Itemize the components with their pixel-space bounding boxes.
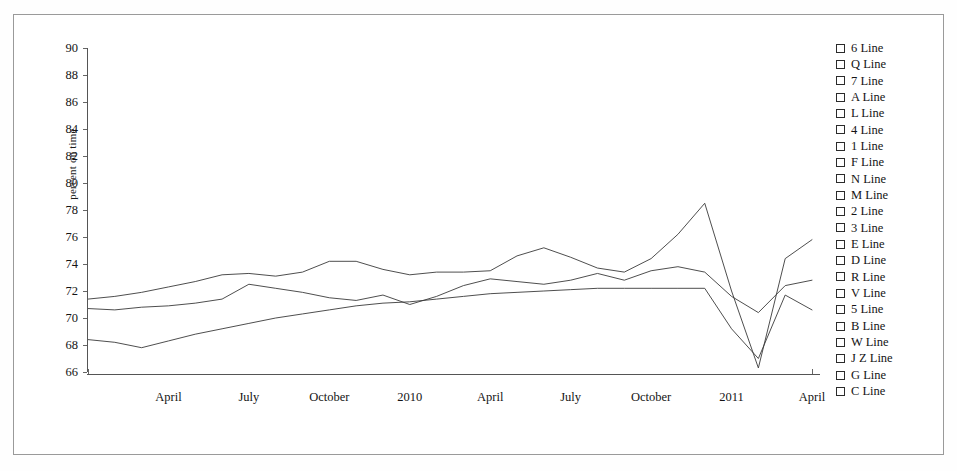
y-tick-label: 74: [52, 258, 78, 270]
legend-item-label: 2 Line: [851, 205, 883, 218]
x-tick-label: April: [477, 390, 503, 405]
legend-checkbox-icon[interactable]: [836, 371, 845, 380]
legend-item[interactable]: L Line: [836, 105, 936, 121]
legend-item-label: M Line: [851, 189, 888, 202]
legend-item-label: 3 Line: [851, 222, 883, 235]
legend-item[interactable]: V Line: [836, 285, 936, 301]
legend-checkbox-icon[interactable]: [836, 322, 845, 331]
y-tick-mark: [83, 102, 87, 103]
legend-item-label: E Line: [851, 238, 885, 251]
legend-item-label: G Line: [851, 369, 886, 382]
y-tick-mark: [83, 237, 87, 238]
legend-checkbox-icon[interactable]: [836, 142, 845, 151]
legend-item[interactable]: F Line: [836, 154, 936, 170]
y-tick-label: 84: [52, 123, 78, 135]
y-tick-mark: [83, 156, 87, 157]
legend-checkbox-icon[interactable]: [836, 174, 845, 183]
legend-checkbox-icon[interactable]: [836, 354, 845, 363]
legend-item[interactable]: M Line: [836, 187, 936, 203]
legend-checkbox-icon[interactable]: [836, 76, 845, 85]
y-tick-label: 76: [52, 231, 78, 243]
y-tick-mark: [83, 291, 87, 292]
legend-checkbox-icon[interactable]: [836, 207, 845, 216]
legend-checkbox-icon[interactable]: [836, 125, 845, 134]
y-tick-mark: [83, 318, 87, 319]
y-tick-label: 88: [52, 69, 78, 81]
legend-item[interactable]: N Line: [836, 171, 936, 187]
x-tick-label: July: [560, 390, 581, 405]
legend-item[interactable]: A Line: [836, 89, 936, 105]
legend-checkbox-icon[interactable]: [836, 158, 845, 167]
x-tick-label: 2011: [719, 390, 744, 405]
y-tick-label: 90: [52, 42, 78, 54]
y-tick-label: 86: [52, 96, 78, 108]
legend-item-label: R Line: [851, 271, 885, 284]
legend-checkbox-icon[interactable]: [836, 272, 845, 281]
legend-item[interactable]: 5 Line: [836, 302, 936, 318]
legend-checkbox-icon[interactable]: [836, 256, 845, 265]
legend-item-label: C Line: [851, 385, 885, 398]
legend-item-label: L Line: [851, 107, 884, 120]
y-tick-label: 82: [52, 150, 78, 162]
legend-checkbox-icon[interactable]: [836, 387, 845, 396]
x-tick-label: July: [238, 390, 259, 405]
legend-item[interactable]: 6 Line: [836, 40, 936, 56]
series-line: [88, 203, 812, 368]
legend-item-label: A Line: [851, 91, 885, 104]
y-tick-label: 78: [52, 204, 78, 216]
legend-item[interactable]: 7 Line: [836, 73, 936, 89]
y-tick-label: 66: [52, 366, 78, 378]
y-tick-mark: [83, 48, 87, 49]
legend-item[interactable]: Q Line: [836, 56, 936, 72]
y-tick-mark: [83, 75, 87, 76]
y-tick-mark: [83, 183, 87, 184]
legend-item[interactable]: W Line: [836, 334, 936, 350]
legend-item-label: N Line: [851, 173, 886, 186]
legend-checkbox-icon[interactable]: [836, 289, 845, 298]
legend-item[interactable]: B Line: [836, 318, 936, 334]
legend-checkbox-icon[interactable]: [836, 338, 845, 347]
legend-item-label: W Line: [851, 336, 889, 349]
y-tick-label: 68: [52, 339, 78, 351]
chart-figure: percent on time 908886848280787674727068…: [0, 0, 957, 471]
y-tick-label: 72: [52, 285, 78, 297]
legend-checkbox-icon[interactable]: [836, 44, 845, 53]
legend-checkbox-icon[interactable]: [836, 305, 845, 314]
y-tick-mark: [83, 210, 87, 211]
legend-checkbox-icon[interactable]: [836, 109, 845, 118]
series-line: [88, 267, 812, 313]
legend-item[interactable]: J Z Line: [836, 351, 936, 367]
y-tick-mark: [83, 264, 87, 265]
x-tick-label: April: [799, 390, 825, 405]
legend-item-label: F Line: [851, 156, 884, 169]
x-axis-line: [87, 374, 820, 375]
legend-checkbox-icon[interactable]: [836, 191, 845, 200]
legend-item[interactable]: C Line: [836, 383, 936, 399]
series-line: [88, 288, 812, 358]
legend-item[interactable]: G Line: [836, 367, 936, 383]
legend-item[interactable]: 3 Line: [836, 220, 936, 236]
y-tick-label: 80: [52, 177, 78, 189]
legend-item[interactable]: 2 Line: [836, 203, 936, 219]
legend-checkbox-icon[interactable]: [836, 60, 845, 69]
legend-item-label: 4 Line: [851, 124, 883, 137]
x-tick-label: April: [155, 390, 181, 405]
legend-item-label: 6 Line: [851, 42, 883, 55]
legend-item-label: 7 Line: [851, 75, 883, 88]
legend-checkbox-icon[interactable]: [836, 240, 845, 249]
x-tick-label: 2010: [397, 390, 422, 405]
legend-checkbox-icon[interactable]: [836, 93, 845, 102]
legend: 6 LineQ Line7 LineA LineL Line4 Line1 Li…: [836, 40, 936, 400]
legend-item[interactable]: D Line: [836, 252, 936, 268]
legend-item-label: D Line: [851, 254, 886, 267]
legend-item-label: Q Line: [851, 58, 886, 71]
legend-item[interactable]: R Line: [836, 269, 936, 285]
legend-item-label: V Line: [851, 287, 886, 300]
plot-area: [88, 44, 818, 374]
legend-checkbox-icon[interactable]: [836, 223, 845, 232]
legend-item-label: B Line: [851, 320, 885, 333]
legend-item[interactable]: 1 Line: [836, 138, 936, 154]
legend-item[interactable]: E Line: [836, 236, 936, 252]
legend-item-label: 5 Line: [851, 303, 883, 316]
legend-item[interactable]: 4 Line: [836, 122, 936, 138]
